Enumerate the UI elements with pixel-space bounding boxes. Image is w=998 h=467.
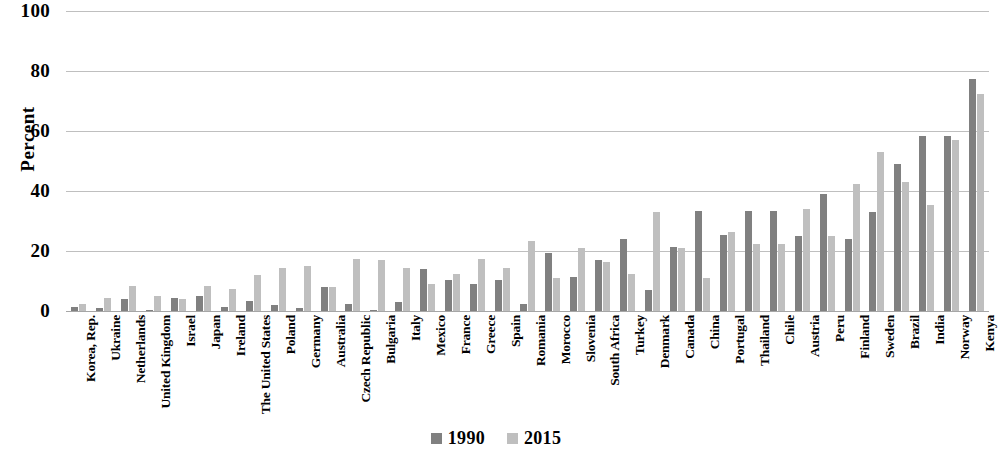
bar-1990 [894,164,901,311]
bar-1990 [196,296,203,311]
bar-group [765,11,790,311]
bar-2015 [453,274,460,312]
bar-2015 [254,275,261,311]
bar-1990 [820,194,827,311]
bar-1990 [171,298,178,312]
x-label-cell: The United States [241,313,266,423]
x-label-cell: Portugal [715,313,740,423]
plot-area [66,11,989,311]
bar-1990 [720,235,727,312]
x-label-cell: Israel [166,313,191,423]
x-label-cell: Kenya [964,313,989,423]
bar-group [715,11,740,311]
bar-2015 [853,184,860,312]
bar-group [465,11,490,311]
bar-group [365,11,390,311]
bar-group [440,11,465,311]
bar-group [865,11,890,311]
bar-2015 [803,209,810,311]
bar-group [640,11,665,311]
bar-2015 [553,278,560,311]
x-label-cell: Bulgaria [365,313,390,423]
x-label-cell: Slovenia [565,313,590,423]
bar-group [266,11,291,311]
bar-group [216,11,241,311]
bar-group [515,11,540,311]
bar-group [815,11,840,311]
bar-1990 [221,307,228,312]
legend-item-2015[interactable]: 2015 [507,428,561,449]
bar-1990 [919,136,926,312]
bar-group [415,11,440,311]
x-label-cell: Peru [815,313,840,423]
bar-group [590,11,615,311]
x-label-cell: Romania [515,313,540,423]
bar-1990 [520,304,527,312]
bar-1990 [645,290,652,311]
bar-2015 [703,278,710,311]
x-label-cell: Czech Republic [340,313,365,423]
x-label-cell: Austria [790,313,815,423]
bar-group [91,11,116,311]
bar-group [241,11,266,311]
x-label-cell: Greece [465,313,490,423]
x-label-cell: Thailand [740,313,765,423]
x-label-cell: India [914,313,939,423]
bar-2015 [229,289,236,312]
bar-group [840,11,865,311]
x-label-cell: Mexico [415,313,440,423]
legend-swatch-icon [431,433,442,444]
bar-1990 [71,307,78,312]
y-tick-label-20: 20 [30,240,50,262]
bar-group [291,11,316,311]
bar-1990 [445,280,452,312]
x-label-cell: Brazil [889,313,914,423]
bar-2015 [653,212,660,311]
legend-item-1990[interactable]: 1990 [431,428,485,449]
x-axis-label: Kenya [982,315,998,352]
y-tick-label-60: 60 [30,120,50,142]
bar-group [790,11,815,311]
bar-2015 [478,259,485,312]
bar-1990 [969,79,976,312]
x-axis-category-labels: Korea, Rep.UkraineNetherlandsUnited King… [66,313,989,423]
y-tick-label-0: 0 [40,300,50,322]
bar-2015 [728,232,735,312]
bar-2015 [104,298,111,312]
bar-1990 [770,211,777,312]
x-label-cell: United Kingdom [141,313,166,423]
x-label-cell: Norway [939,313,964,423]
bar-group [615,11,640,311]
x-label-cell: South Africa [590,313,615,423]
bar-group [191,11,216,311]
bar-2015 [129,286,136,312]
x-label-cell: Spain [490,313,515,423]
x-label-cell: Turkey [615,313,640,423]
y-tick-label-100: 100 [21,0,50,22]
bar-1990 [296,308,303,311]
bar-1990 [121,299,128,311]
x-label-cell: Finland [840,313,865,423]
bar-2015 [353,259,360,312]
bar-1990 [745,211,752,312]
bar-2015 [578,248,585,311]
bar-group [690,11,715,311]
bar-2015 [154,296,161,311]
bar-group [964,11,989,311]
bar-2015 [528,241,535,312]
bar-1990 [795,236,802,311]
bar-2015 [678,248,685,311]
chart-legend: 19902015 [0,428,992,449]
x-label-cell: Ireland [216,313,241,423]
bar-2015 [753,244,760,312]
bar-1990 [420,269,427,311]
x-label-cell: Italy [390,313,415,423]
x-label-cell: Poland [266,313,291,423]
bar-1990 [395,302,402,311]
bar-group [490,11,515,311]
bar-2015 [603,262,610,312]
bar-1990 [670,247,677,312]
bar-1990 [845,239,852,311]
bar-group [565,11,590,311]
bar-2015 [378,260,385,311]
